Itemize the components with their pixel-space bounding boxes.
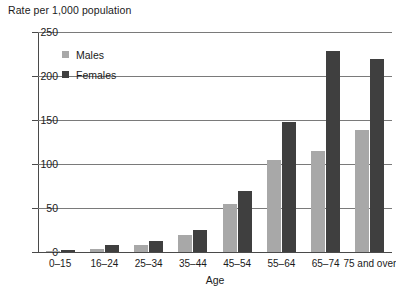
bar-males: [90, 249, 104, 252]
bar-males: [311, 151, 325, 252]
bar-males: [178, 235, 192, 252]
x-axis-tick-label: 65–74: [312, 258, 340, 269]
y-axis-tick-mark: [32, 252, 38, 253]
x-axis-tick-label: 35–44: [179, 258, 207, 269]
x-axis-tick-label: 0–15: [49, 258, 71, 269]
bar-females: [370, 59, 384, 252]
bar-females: [238, 191, 252, 252]
bar-females: [326, 51, 340, 252]
bar-females: [149, 241, 163, 252]
bar-females: [61, 250, 75, 252]
bar-group: [171, 32, 215, 252]
bar-females: [105, 245, 119, 252]
bar-group: [127, 32, 171, 252]
x-axis-tick-label: 75 and over: [343, 258, 396, 269]
bar-males: [223, 204, 237, 252]
bar-group: [82, 32, 126, 252]
bar-group: [38, 32, 82, 252]
chart-title: Rate per 1,000 population: [8, 4, 131, 16]
gridline: [38, 252, 392, 253]
bar-group: [304, 32, 348, 252]
bar-group: [215, 32, 259, 252]
x-axis-title: Age: [38, 274, 392, 286]
bar-males: [267, 160, 281, 252]
bar-males: [355, 130, 369, 252]
x-axis-tick-label: 55–64: [267, 258, 295, 269]
bar-group: [348, 32, 392, 252]
bar-females: [193, 230, 207, 252]
x-axis-tick-label: 25–34: [135, 258, 163, 269]
x-axis-tick-label: 45–54: [223, 258, 251, 269]
bar-males: [134, 245, 148, 252]
x-axis-tick-label: 16–24: [90, 258, 118, 269]
bar-females: [282, 122, 296, 252]
bar-males: [46, 251, 60, 252]
bar-group: [259, 32, 303, 252]
